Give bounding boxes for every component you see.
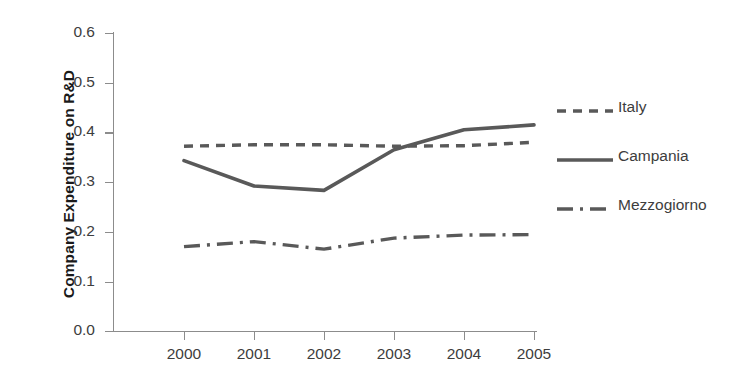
legend-label: Campania: [618, 147, 689, 165]
legend: Italy Campania Mezzogiorno: [556, 96, 743, 243]
legend-key-dashed-icon: [556, 108, 614, 112]
legend-item-campania[interactable]: Campania: [556, 145, 743, 194]
legend-label: Italy: [618, 98, 646, 116]
legend-item-mezzogiorno[interactable]: Mezzogiorno: [556, 194, 743, 243]
legend-key-solid-icon: [556, 157, 614, 161]
series-line-campania: [184, 125, 534, 190]
legend-item-italy[interactable]: Italy: [556, 96, 743, 145]
series-line-mezzogiorno: [184, 235, 534, 250]
legend-key-dash-dot-icon: [556, 206, 614, 210]
legend-label: Mezzogiorno: [618, 196, 707, 214]
chart-container: Company Expenditure on R&D 0.6 0.5 0.4 0…: [0, 0, 743, 389]
series-line-italy: [184, 142, 534, 146]
